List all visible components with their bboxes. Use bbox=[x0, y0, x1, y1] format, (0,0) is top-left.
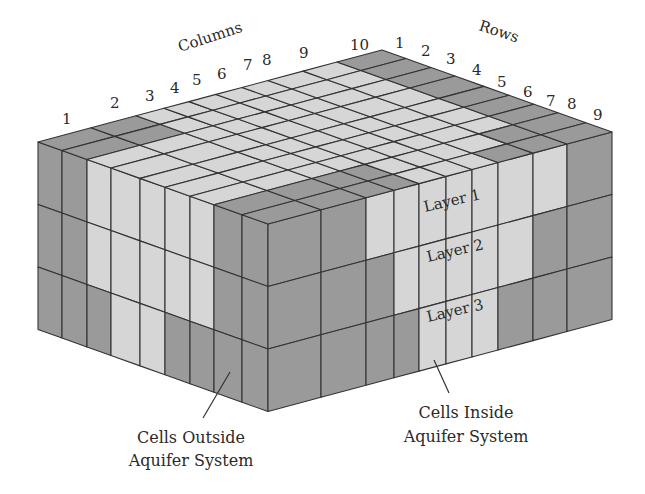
cell-front-right bbox=[567, 257, 612, 332]
row-tick-2: 2 bbox=[421, 42, 431, 60]
cell-front-right bbox=[498, 278, 533, 350]
row-tick-1: 1 bbox=[395, 34, 405, 52]
cell-front-left bbox=[190, 196, 214, 267]
rows-axis-label: Rows bbox=[477, 17, 521, 47]
cell-front-right bbox=[394, 184, 419, 253]
columns-axis-label: Columns bbox=[176, 18, 245, 56]
cell-front-right bbox=[567, 132, 612, 207]
grid-block bbox=[38, 50, 612, 412]
cell-front-left bbox=[87, 284, 111, 355]
cell-front-left bbox=[87, 159, 111, 230]
cell-front-left bbox=[140, 303, 165, 374]
cell-front-left bbox=[62, 213, 87, 284]
column-tick-5: 5 bbox=[192, 71, 202, 89]
row-tick-8: 8 bbox=[567, 95, 577, 113]
aquifer-grid-diagram: Columns Rows 12345678910 123456789 Layer… bbox=[0, 0, 645, 494]
cell-front-left bbox=[242, 215, 268, 287]
column-tick-6: 6 bbox=[217, 65, 227, 83]
cell-front-right bbox=[567, 195, 612, 270]
cell-front-left bbox=[87, 222, 111, 293]
cell-front-left bbox=[165, 187, 190, 258]
column-tick-10: 10 bbox=[350, 36, 369, 54]
cell-front-left bbox=[165, 312, 190, 383]
cell-front-right bbox=[472, 225, 498, 294]
cell-front-right bbox=[366, 315, 394, 385]
cell-front-left bbox=[242, 277, 268, 349]
cell-front-left bbox=[111, 293, 140, 366]
cell-front-right bbox=[498, 216, 533, 288]
callout-inside: Cells Inside Aquifer System bbox=[403, 360, 529, 446]
callout-outside-line2: Aquifer System bbox=[128, 451, 254, 470]
cell-front-left bbox=[62, 151, 87, 222]
cell-front-left bbox=[62, 276, 87, 347]
cell-front-left bbox=[38, 142, 62, 213]
cell-front-left bbox=[140, 178, 165, 249]
column-tick-7: 7 bbox=[243, 56, 253, 74]
cell-front-right bbox=[498, 153, 533, 225]
cell-front-left bbox=[190, 259, 214, 330]
row-tick-7: 7 bbox=[546, 92, 556, 110]
row-tick-6: 6 bbox=[523, 83, 533, 101]
cell-front-right bbox=[321, 323, 366, 398]
callout-inside-line2: Aquifer System bbox=[403, 427, 529, 446]
cell-front-right bbox=[533, 144, 567, 216]
callout-inside-line1: Cells Inside bbox=[419, 403, 514, 422]
cell-front-left bbox=[111, 231, 140, 304]
cell-front-left bbox=[38, 267, 62, 338]
cell-front-left bbox=[214, 205, 242, 277]
cell-front-right bbox=[366, 253, 394, 323]
row-tick-3: 3 bbox=[446, 50, 456, 68]
cell-front-left bbox=[165, 250, 190, 321]
cell-front-right bbox=[321, 198, 366, 273]
row-tick-9: 9 bbox=[593, 106, 603, 124]
callout-outside-line1: Cells Outside bbox=[137, 428, 245, 447]
row-tick-5: 5 bbox=[497, 73, 507, 91]
cell-front-left bbox=[38, 205, 62, 276]
cell-front-left bbox=[190, 321, 214, 392]
cell-front-left bbox=[111, 168, 140, 241]
row-tick-4: 4 bbox=[472, 61, 482, 79]
grid-block-drawing: Columns Rows 12345678910 123456789 Layer… bbox=[0, 0, 645, 494]
cell-front-left bbox=[242, 340, 268, 412]
cell-front-left bbox=[140, 241, 165, 312]
cell-front-right bbox=[533, 207, 567, 279]
column-tick-2: 2 bbox=[110, 94, 120, 112]
cell-front-right bbox=[268, 335, 321, 412]
cell-front-right bbox=[394, 309, 419, 378]
column-tick-4: 4 bbox=[170, 79, 180, 97]
cell-front-left bbox=[214, 267, 242, 339]
column-tick-3: 3 bbox=[145, 87, 155, 105]
column-tick-9: 9 bbox=[299, 44, 309, 62]
cell-front-right bbox=[394, 246, 419, 315]
cell-front-right bbox=[366, 190, 394, 260]
column-tick-1: 1 bbox=[62, 110, 72, 128]
cell-front-right bbox=[321, 260, 366, 335]
column-tick-8: 8 bbox=[262, 51, 272, 69]
cell-front-right bbox=[533, 269, 567, 341]
